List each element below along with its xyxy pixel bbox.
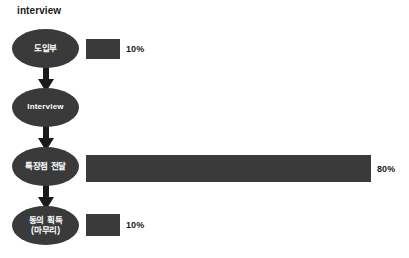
diagram-canvas: interview 도입부 Interview 특장점 전달 동의 획득 (마무…	[0, 0, 409, 258]
flow-node-interview[interactable]: Interview	[12, 88, 79, 127]
bar-intro	[86, 39, 120, 59]
flow-node-features[interactable]: 특장점 전달	[12, 147, 79, 186]
flow-node-intro[interactable]: 도입부	[12, 29, 79, 68]
bar-value-label: 10%	[126, 44, 144, 54]
flow-node-sublabel: (마무리)	[31, 226, 60, 236]
bar-value-label: 80%	[377, 164, 395, 174]
flow-node-closing[interactable]: 동의 획득 (마무리)	[12, 206, 79, 245]
flow-node-label: 도입부	[34, 44, 58, 54]
bar-value-label: 10%	[126, 220, 144, 230]
page-title: interview	[17, 5, 61, 16]
bar-closing	[86, 214, 120, 236]
bar-features	[86, 155, 371, 182]
flow-node-label: Interview	[27, 103, 63, 112]
flow-node-label: 특장점 전달	[25, 162, 67, 172]
